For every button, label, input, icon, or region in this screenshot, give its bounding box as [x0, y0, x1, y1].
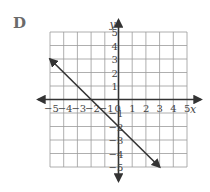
y-tick-label: −1: [109, 108, 124, 119]
x-tick-label: 1: [129, 103, 135, 114]
y-tick-label: 2: [112, 68, 118, 79]
y-tick-label: 1: [112, 81, 118, 92]
y-tick-label: −5: [109, 162, 124, 173]
y-tick-label: 5: [112, 27, 118, 38]
x-tick-label: −4: [58, 103, 73, 114]
x-tick-label: −2: [85, 103, 100, 114]
x-tick-label: −3: [71, 103, 86, 114]
coordinate-plane: xy−5−4−3−2−1012345−5−4−3−2−112345: [0, 0, 210, 192]
x-tick-label: 4: [170, 103, 176, 114]
y-tick-label: 3: [112, 54, 118, 65]
x-tick-label: 3: [157, 103, 163, 114]
x-tick-label: −5: [44, 103, 59, 114]
tick-labels: xy−5−4−3−2−1012345−5−4−3−2−112345: [44, 18, 197, 173]
y-tick-label: 4: [112, 41, 118, 52]
x-axis-label: x: [190, 103, 197, 116]
x-tick-label: 5: [184, 103, 190, 114]
y-tick-label: −4: [109, 149, 124, 160]
x-tick-label: 2: [143, 103, 149, 114]
y-tick-label: −3: [109, 135, 124, 146]
